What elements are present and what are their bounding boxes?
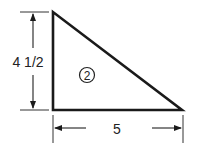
region-label: 2 bbox=[84, 69, 91, 83]
height-label: 4 1/2 bbox=[12, 54, 43, 70]
triangle-diagram: 4 1/2 5 2 bbox=[0, 0, 202, 154]
triangle-shape bbox=[53, 12, 182, 110]
base-label: 5 bbox=[113, 121, 121, 137]
